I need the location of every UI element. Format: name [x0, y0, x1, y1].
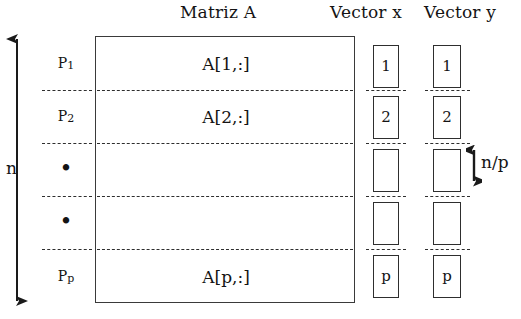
matrix-heading: Matriz A	[180, 2, 256, 22]
processor-ellipsis-dot-1: •	[38, 158, 94, 180]
matrix-block-label-2: A[2,:]	[96, 107, 356, 127]
divider-4-vector-y-segment	[425, 249, 470, 250]
vector-x-block-1: 1	[373, 45, 399, 88]
divider-2-vector-x-segment	[366, 143, 406, 144]
processor-ellipsis-dot-2: •	[38, 211, 94, 233]
matrix-a-frame: A[1,:] A[2,:] A[p,:]	[95, 36, 355, 303]
vector-x-heading: Vector x	[330, 2, 402, 22]
vector-x-block-3	[373, 149, 399, 192]
divider-1-label-segment	[42, 90, 92, 91]
vector-y-heading: Vector y	[424, 2, 496, 22]
figure-canvas: Matriz A Vector x Vector y n P1 P2 • • P…	[0, 0, 521, 319]
divider-1-vector-x-segment	[366, 90, 406, 91]
n-dimension-label: n	[6, 158, 17, 178]
processor-label-p1-base: P	[58, 55, 67, 71]
divider-1-matrix-segment	[97, 90, 353, 91]
divider-4-label-segment	[42, 249, 92, 250]
divider-2-vector-y-segment	[425, 143, 470, 144]
block-height-label: n/p	[481, 152, 509, 172]
divider-3-vector-y-segment	[425, 196, 470, 197]
processor-label-p2: P2	[38, 108, 94, 125]
processor-label-p1-sub: 1	[67, 59, 74, 72]
vector-y-block-2: 2	[433, 96, 461, 139]
processor-label-p2-base: P	[58, 108, 67, 124]
divider-1-vector-y-segment	[425, 90, 470, 91]
divider-3-vector-x-segment	[366, 196, 406, 197]
processor-label-pp-sub: p	[67, 272, 74, 285]
processor-label-p2-sub: 2	[67, 112, 74, 125]
processor-label-p1: P1	[38, 55, 94, 72]
divider-4-matrix-segment	[97, 249, 353, 250]
divider-2-label-segment	[42, 143, 92, 144]
vector-x-block-2: 2	[373, 96, 399, 139]
vector-y-block-4	[433, 202, 461, 245]
block-height-arrow-icon	[466, 136, 482, 194]
vector-x-block-4	[373, 202, 399, 245]
processor-label-column: P1 P2 • • Pp	[38, 36, 94, 303]
processor-label-pp: Pp	[38, 268, 94, 285]
vector-y-block-5: p	[433, 255, 461, 298]
divider-3-matrix-segment	[97, 196, 353, 197]
divider-4-vector-x-segment	[366, 249, 406, 250]
matrix-block-label-1: A[1,:]	[96, 54, 356, 74]
processor-label-pp-base: P	[58, 268, 67, 284]
vector-y-block-1: 1	[433, 45, 461, 88]
matrix-block-label-5: A[p,:]	[96, 267, 356, 287]
divider-2-matrix-segment	[97, 143, 353, 144]
vector-x-block-5: p	[373, 255, 399, 298]
divider-3-label-segment	[42, 196, 92, 197]
vector-y-block-3	[433, 149, 461, 192]
